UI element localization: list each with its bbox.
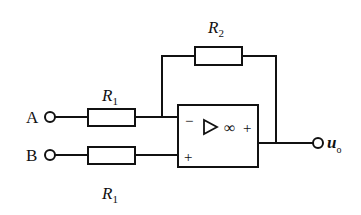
- noninverting-input-sign: +: [184, 149, 192, 165]
- output-label: uo: [327, 133, 341, 155]
- infinity-gain-symbol: ∞: [224, 119, 235, 136]
- resistor-r1-bottom: [88, 147, 135, 164]
- difference-amplifier-circuit: R2 A R1 B R1 −: [0, 0, 361, 215]
- input-a-branch: A R1: [26, 86, 178, 127]
- r2-label: R2: [207, 18, 224, 39]
- input-b-branch: B R1: [26, 146, 178, 205]
- op-amp: − + ∞ +: [178, 105, 258, 167]
- resistor-r2: [195, 47, 242, 65]
- output-branch: uo: [258, 133, 341, 155]
- output-terminal-icon: [313, 138, 323, 148]
- inverting-input-sign: −: [185, 113, 193, 129]
- r1-top-label: R1: [101, 86, 118, 107]
- output-sign: +: [243, 120, 251, 136]
- resistor-r1-top: [88, 109, 135, 126]
- terminal-a-icon: [45, 112, 55, 122]
- terminal-b-icon: [45, 150, 55, 160]
- r1-bottom-label: R1: [101, 184, 118, 205]
- terminal-b-label: B: [26, 146, 37, 165]
- terminal-a-label: A: [26, 108, 39, 127]
